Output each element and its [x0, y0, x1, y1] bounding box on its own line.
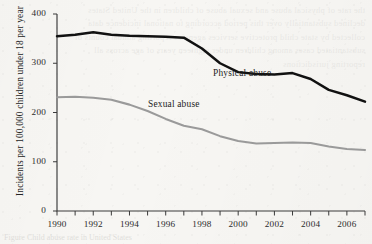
series-line-sexual-abuse [57, 97, 365, 150]
x-axis-tick-label: 1990 [37, 219, 77, 229]
x-axis-tick-label: 2006 [327, 219, 367, 229]
x-axis-tick-label: 1992 [73, 219, 113, 229]
x-axis-tick-label: 1996 [146, 219, 186, 229]
y-axis-tick-label: 400 [12, 8, 46, 18]
y-axis-title: Incidents per 100,000 children under 18 … [15, 0, 25, 207]
x-axis-tick-label: 2004 [291, 219, 331, 229]
chart-axes [53, 14, 365, 216]
axis-lines [57, 14, 365, 211]
figure-page: the rate of physical abuse and sexual ab… [0, 0, 372, 244]
series-label-sexual-abuse: Sexual abuse [148, 99, 200, 109]
y-axis-tick-label: 100 [12, 156, 46, 166]
series-label-physical-abuse: Physical abuse [213, 68, 271, 78]
y-axis-tick-label: 300 [12, 57, 46, 67]
y-axis-tick-label: 0 [12, 205, 46, 215]
figure-caption-fragment: Figure Child abuse rate in United States [4, 233, 304, 244]
x-axis-tick-label: 1994 [109, 219, 149, 229]
y-axis-tick-label: 200 [12, 107, 46, 117]
line-chart-plot [0, 0, 372, 244]
series-line-physical-abuse [57, 32, 365, 101]
chart-series [57, 32, 365, 150]
x-axis-tick-label: 2002 [254, 219, 294, 229]
x-axis-tick-label: 1998 [182, 219, 222, 229]
x-axis-tick-label: 2000 [218, 219, 258, 229]
y-axis-ticks [53, 14, 57, 211]
x-axis-ticks [57, 211, 365, 216]
